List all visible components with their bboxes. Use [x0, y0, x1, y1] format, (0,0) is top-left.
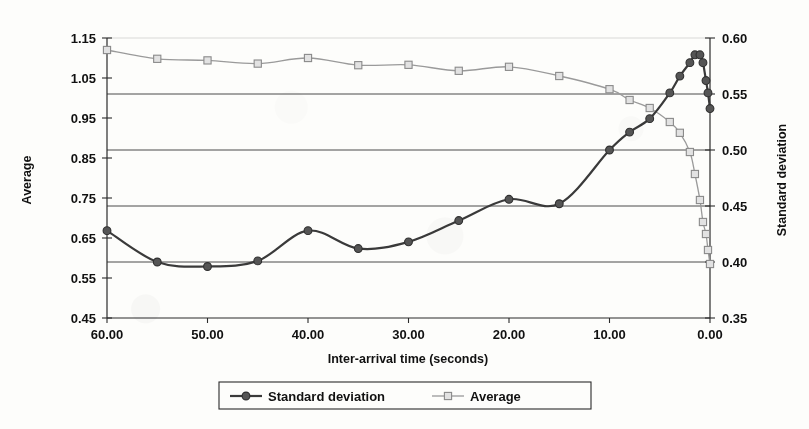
- data-point-marker: [254, 60, 261, 67]
- x-tick-label: 50.00: [191, 327, 224, 342]
- legend-label: Average: [470, 389, 521, 404]
- y-axis-title: Average: [20, 156, 34, 205]
- data-point-marker: [405, 238, 413, 246]
- secondary-y-tick-label: 0.55: [722, 87, 747, 102]
- y-tick-label: 0.65: [71, 231, 96, 246]
- x-tick-label: 10.00: [593, 327, 626, 342]
- series-average: [103, 46, 713, 267]
- secondary-y-tick-label: 0.40: [722, 255, 747, 270]
- y-tick-label: 0.45: [71, 311, 96, 326]
- y-tick-label: 1.15: [71, 31, 96, 46]
- data-point-marker: [702, 230, 709, 237]
- data-point-marker: [505, 63, 512, 70]
- gridlines: [107, 38, 710, 262]
- data-point-marker: [555, 200, 563, 208]
- data-point-marker: [691, 170, 698, 177]
- y-axis-ticks: 0.450.550.650.750.850.951.051.15: [71, 31, 112, 326]
- y-tick-label: 0.55: [71, 271, 96, 286]
- data-point-marker: [666, 89, 674, 97]
- data-point-marker: [704, 246, 711, 253]
- legend-marker-square: [444, 392, 451, 399]
- secondary-y-tick-label: 0.60: [722, 31, 747, 46]
- data-point-marker: [204, 57, 211, 64]
- data-point-marker: [699, 59, 707, 67]
- data-point-marker: [666, 118, 673, 125]
- data-point-marker: [646, 104, 653, 111]
- data-point-marker: [704, 89, 712, 97]
- chart-canvas: 60.0050.0040.0030.0020.0010.000.00 0.450…: [0, 0, 809, 429]
- data-point-marker: [254, 257, 262, 265]
- series-line: [107, 50, 710, 264]
- data-point-marker: [706, 105, 714, 113]
- data-point-marker: [455, 67, 462, 74]
- x-tick-label: 60.00: [91, 327, 124, 342]
- secondary-y-tick-label: 0.50: [722, 143, 747, 158]
- axis-lines: [107, 38, 710, 318]
- x-axis-ticks: 60.0050.0040.0030.0020.0010.000.00: [91, 318, 723, 342]
- data-point-marker: [696, 196, 703, 203]
- data-point-marker: [702, 77, 710, 85]
- data-point-marker: [204, 263, 212, 271]
- data-point-marker: [405, 61, 412, 68]
- x-tick-label: 20.00: [493, 327, 526, 342]
- data-point-marker: [686, 148, 693, 155]
- data-point-marker: [686, 59, 694, 67]
- data-point-marker: [626, 128, 634, 136]
- y-tick-label: 0.95: [71, 111, 96, 126]
- secondary-y-tick-label: 0.45: [722, 199, 747, 214]
- data-point-marker: [103, 227, 111, 235]
- legend-label: Standard deviation: [268, 389, 385, 404]
- legend-items: Standard deviationAverage: [230, 389, 521, 404]
- data-point-marker: [646, 115, 654, 123]
- data-point-marker: [505, 195, 513, 203]
- data-point-marker: [606, 86, 613, 93]
- secondary-y-tick-label: 0.35: [722, 311, 747, 326]
- legend: Standard deviationAverage: [219, 382, 591, 409]
- legend-marker-circle: [242, 392, 250, 400]
- data-point-marker: [355, 62, 362, 69]
- data-point-marker: [606, 146, 614, 154]
- data-point-marker: [103, 46, 110, 53]
- y-tick-label: 0.75: [71, 191, 96, 206]
- data-point-marker: [154, 55, 161, 62]
- data-point-marker: [354, 245, 362, 253]
- secondary-y-axis-ticks: 0.350.400.450.500.550.60: [705, 31, 747, 326]
- series-standard-deviation: [103, 51, 714, 270]
- data-point-marker: [455, 217, 463, 225]
- x-tick-label: 30.00: [392, 327, 425, 342]
- secondary-y-axis-title: Standard deviation: [775, 124, 789, 237]
- y-tick-label: 1.05: [71, 71, 96, 86]
- chart-figure: 60.0050.0040.0030.0020.0010.000.00 0.450…: [0, 0, 809, 429]
- data-point-marker: [304, 227, 312, 235]
- data-point-marker: [699, 218, 706, 225]
- data-point-marker: [153, 258, 161, 266]
- y-tick-label: 0.85: [71, 151, 96, 166]
- data-point-marker: [304, 54, 311, 61]
- data-point-marker: [556, 72, 563, 79]
- x-axis-title: Inter-arrival time (seconds): [328, 352, 488, 366]
- data-point-marker: [626, 96, 633, 103]
- series-line: [107, 54, 710, 267]
- data-point-marker: [676, 72, 684, 80]
- data-point-marker: [676, 129, 683, 136]
- data-point-marker: [706, 260, 713, 267]
- x-tick-label: 40.00: [292, 327, 325, 342]
- x-tick-label: 0.00: [697, 327, 722, 342]
- data-point-marker: [696, 51, 704, 59]
